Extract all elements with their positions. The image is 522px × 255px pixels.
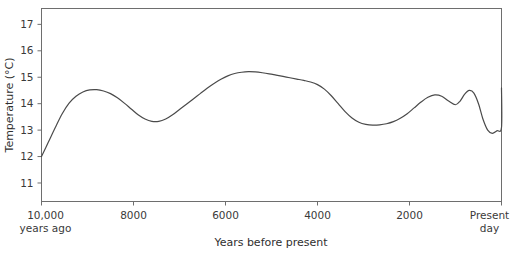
y-tick-label: 17 xyxy=(20,18,33,30)
x-tick-label: 8000 xyxy=(120,209,147,221)
plot-frame xyxy=(42,9,502,202)
temperature-curve xyxy=(42,72,502,157)
x-tick-label: 6000 xyxy=(212,209,239,221)
x-tick-label: 10,000 xyxy=(27,209,64,221)
x-tick-label: 2000 xyxy=(396,209,423,221)
x-axis-tick-labels: 10,000years ago8000600040002000Presentda… xyxy=(20,209,510,234)
x-axis-title: Years before present xyxy=(213,236,328,249)
y-tick-label: 15 xyxy=(20,71,33,83)
x-tick-sublabel: day xyxy=(480,222,499,234)
y-tick-label: 14 xyxy=(20,97,34,109)
y-tick-label: 16 xyxy=(20,44,34,56)
chart-page: 11121314151617 10,000years ago8000600040… xyxy=(0,0,522,255)
y-tick-label: 13 xyxy=(20,124,33,136)
y-axis-ticks xyxy=(38,24,42,183)
x-tick-label: 4000 xyxy=(304,209,331,221)
x-axis-ticks xyxy=(42,202,502,206)
y-axis-title: Temperature (°C) xyxy=(3,58,16,154)
x-tick-sublabel: years ago xyxy=(20,222,72,234)
y-tick-label: 11 xyxy=(20,177,33,189)
y-tick-label: 12 xyxy=(20,150,33,162)
x-tick-label: Present xyxy=(470,209,509,221)
holocene-temperature-chart: 11121314151617 10,000years ago8000600040… xyxy=(0,0,522,255)
y-axis-tick-labels: 11121314151617 xyxy=(20,18,34,189)
